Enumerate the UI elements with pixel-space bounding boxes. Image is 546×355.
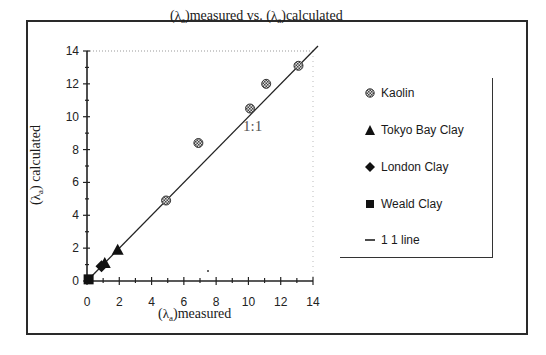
kaolin-point — [194, 139, 203, 148]
subscript: a — [35, 190, 45, 194]
legend-label: Weald Clay — [381, 197, 442, 211]
hatched-circle-icon — [365, 88, 375, 98]
data-series — [84, 46, 318, 284]
x-tick-label: 14 — [306, 295, 320, 309]
x-tick-label: 10 — [242, 295, 256, 309]
y-tick-label: 8 — [72, 143, 79, 157]
x-tick-label: 4 — [148, 295, 155, 309]
y-tick-label: 10 — [66, 110, 80, 124]
legend-item-london-clay: London Clay — [365, 160, 448, 174]
legend-label: Tokyo Bay Clay — [381, 123, 464, 137]
legend-item-kaolin: Kaolin — [365, 86, 414, 100]
y-tick-label: 4 — [72, 208, 79, 222]
kaolin-point — [262, 79, 271, 88]
legend-label: Kaolin — [381, 86, 414, 100]
legend-label: London Clay — [381, 160, 448, 174]
legend-label: 1 1 line — [381, 233, 420, 247]
weald-clay-point — [84, 274, 94, 284]
kaolin-point — [246, 104, 255, 113]
subscript: a — [169, 313, 173, 323]
y-tick-label: 14 — [66, 44, 80, 58]
y-tick-label: 2 — [72, 241, 79, 255]
legend-item-1-1-line: 1 1 line — [365, 233, 420, 247]
one-to-one-annotation: 1:1 — [243, 118, 262, 135]
x-tick-label: 0 — [84, 295, 91, 309]
diamond-icon — [365, 162, 375, 172]
y-tick-label: 0 — [72, 274, 79, 288]
x-label-text: measured — [178, 306, 232, 321]
x-tick-label: 2 — [116, 295, 123, 309]
square-icon — [365, 199, 375, 209]
triangle-icon — [365, 125, 375, 135]
line-icon — [365, 235, 375, 245]
one-to-one-line — [87, 46, 318, 281]
kaolin-point — [162, 196, 171, 205]
legend: Kaolin Tokyo Bay Clay London Clay Weald … — [340, 78, 493, 258]
legend-item-weald-clay: Weald Clay — [365, 197, 442, 211]
x-tick-label: 12 — [274, 295, 288, 309]
kaolin-point — [294, 61, 303, 70]
lambda-symbol: λ — [28, 194, 43, 200]
y-tick-label: 6 — [72, 175, 79, 189]
y-tick-label: 12 — [66, 77, 80, 91]
y-axis-label: (λa) calculated — [28, 125, 45, 205]
y-label-text: calculated — [28, 125, 43, 185]
x-axis-label: (λa)measured — [158, 306, 231, 323]
legend-item-tokyo-bay-clay: Tokyo Bay Clay — [365, 123, 464, 137]
